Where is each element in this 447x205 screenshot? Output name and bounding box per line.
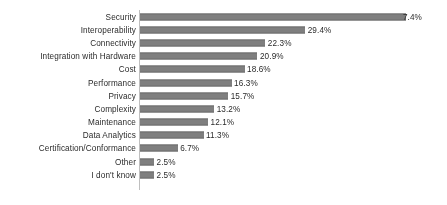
value-label: 13.2% xyxy=(217,104,241,113)
bar-row: Security7.4% xyxy=(0,10,447,23)
value-label: 12.1% xyxy=(211,118,235,127)
bar xyxy=(140,66,245,73)
value-label: 20.9% xyxy=(260,52,284,61)
bar-with-value: 7.4% xyxy=(140,13,422,20)
bar-row: Integration with Hardware20.9% xyxy=(0,50,447,63)
category-label: Maintenance xyxy=(88,118,136,127)
category-label: Integration with Hardware xyxy=(40,52,136,61)
bar xyxy=(140,26,305,33)
bar-rows: Security7.4%Interoperability29.4%Connect… xyxy=(0,10,447,181)
bar-row: Performance16.3% xyxy=(0,76,447,89)
bar xyxy=(140,171,154,178)
value-label: 11.3% xyxy=(206,131,229,140)
bar-with-value: 29.4% xyxy=(140,26,331,33)
bar-row: Connectivity22.3% xyxy=(0,36,447,49)
bar-row: Maintenance12.1% xyxy=(0,116,447,129)
category-label: Interoperability xyxy=(81,25,136,34)
category-label: Data Analytics xyxy=(83,131,136,140)
bar xyxy=(140,145,178,152)
bar xyxy=(140,158,154,165)
category-label: I don't know xyxy=(91,170,136,179)
bar xyxy=(140,39,265,46)
bar-row: Other2.5% xyxy=(0,155,447,168)
category-label: Performance xyxy=(88,78,136,87)
bar xyxy=(140,119,208,126)
bar xyxy=(140,13,406,20)
bar-row: Interoperability29.4% xyxy=(0,23,447,36)
bar-row: Certification/Conformance6.7% xyxy=(0,142,447,155)
category-label: Security xyxy=(106,12,136,21)
value-label: 2.5% xyxy=(157,157,176,166)
value-label: 22.3% xyxy=(268,38,292,47)
bar-with-value: 18.6% xyxy=(140,66,271,73)
value-label: 15.7% xyxy=(231,91,255,100)
value-label: 18.6% xyxy=(247,65,271,74)
bar-with-value: 22.3% xyxy=(140,39,292,46)
value-label: 29.4% xyxy=(308,25,332,34)
bar-with-value: 11.3% xyxy=(140,132,229,139)
bar-with-value: 20.9% xyxy=(140,53,284,60)
bar xyxy=(140,53,257,60)
category-label: Connectivity xyxy=(90,38,136,47)
value-label: 16.3% xyxy=(234,78,258,87)
bar xyxy=(140,79,232,86)
bar-with-value: 2.5% xyxy=(140,171,176,178)
bar xyxy=(140,132,204,139)
bar-with-value: 2.5% xyxy=(140,158,176,165)
value-label: 7.4% xyxy=(403,12,422,21)
bar-chart: Security7.4%Interoperability29.4%Connect… xyxy=(0,0,447,205)
bar-with-value: 16.3% xyxy=(140,79,258,86)
bar xyxy=(140,92,228,99)
bar-with-value: 12.1% xyxy=(140,119,234,126)
category-label: Certification/Conformance xyxy=(39,144,136,153)
value-label: 2.5% xyxy=(157,170,176,179)
bar-row: Privacy15.7% xyxy=(0,89,447,102)
bar-with-value: 13.2% xyxy=(140,105,240,112)
bar-row: I don't know2.5% xyxy=(0,168,447,181)
bar-with-value: 15.7% xyxy=(140,92,254,99)
bar-row: Cost18.6% xyxy=(0,63,447,76)
category-label: Privacy xyxy=(108,91,136,100)
bar-row: Complexity13.2% xyxy=(0,102,447,115)
category-label: Complexity xyxy=(95,104,137,113)
bar-row: Data Analytics11.3% xyxy=(0,129,447,142)
category-label: Other xyxy=(115,157,136,166)
category-label: Cost xyxy=(119,65,136,74)
value-label: 6.7% xyxy=(180,144,199,153)
bar xyxy=(140,105,214,112)
bar-with-value: 6.7% xyxy=(140,145,199,152)
